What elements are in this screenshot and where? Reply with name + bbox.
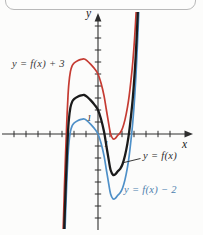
y-axis-label: y [86, 8, 91, 20]
function-graph [0, 0, 203, 235]
label-leader-line [124, 159, 141, 163]
curve-label-f-plus-3: y = f(x) + 3 [12, 59, 65, 70]
curve-label-f: y = f(x) [143, 151, 177, 162]
x-axis-arrow-icon [185, 131, 194, 138]
curve-label-f-minus-2: y = f(x) − 2 [124, 185, 177, 196]
x-tick-label-1: 1 [104, 140, 109, 149]
curve-f [63, 0, 140, 235]
x-axis-label: x [182, 139, 187, 151]
figure-canvas: y x 1 1 y = f(x) + 3 y = f(x) y = f(x) −… [0, 0, 203, 235]
y-tick-label-1: 1 [87, 114, 92, 123]
y-axis-arrow-icon [95, 13, 102, 22]
